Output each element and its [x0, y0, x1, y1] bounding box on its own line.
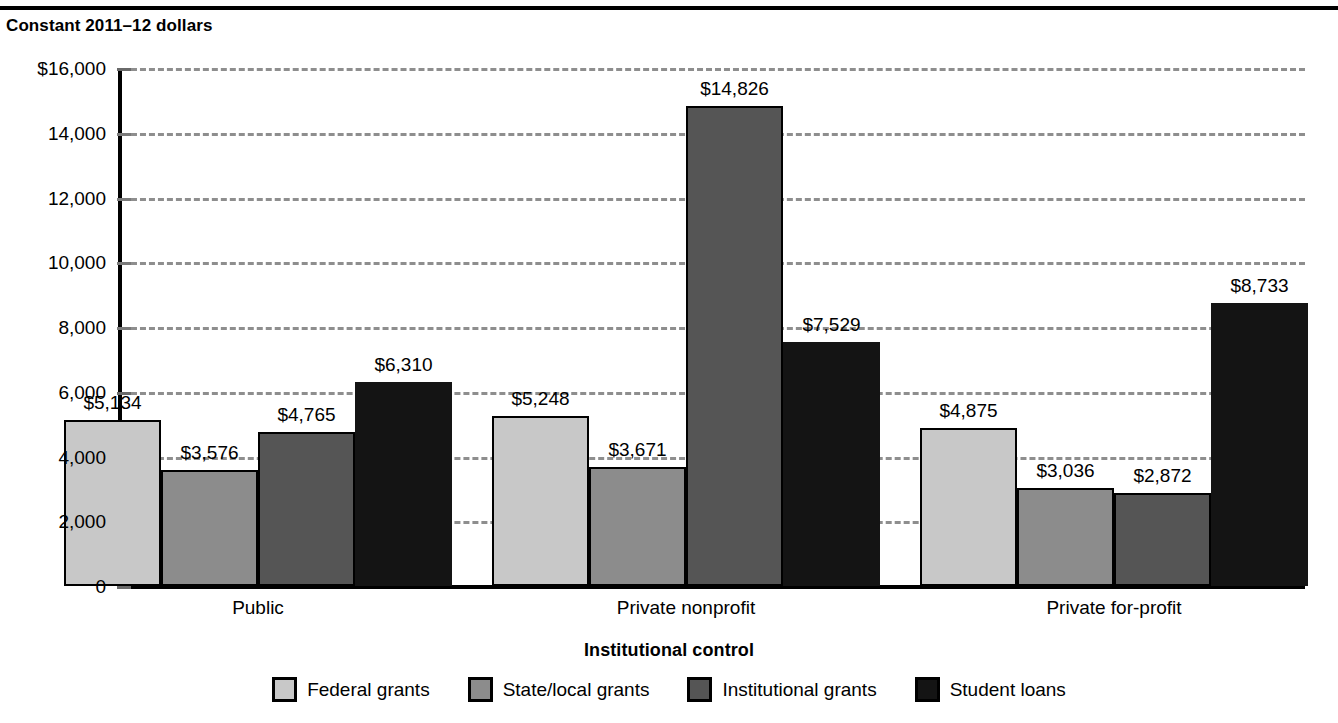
bar[interactable]	[1114, 493, 1211, 586]
y-axis-tick-label: 0	[0, 577, 106, 596]
bar-value-label: $3,036	[1036, 461, 1094, 480]
category-label: Public	[232, 598, 284, 617]
y-axis-tick	[117, 198, 131, 201]
x-axis-title: Institutional control	[0, 640, 1338, 661]
bar[interactable]	[161, 470, 258, 586]
bar[interactable]	[589, 467, 686, 586]
gridline	[122, 68, 1305, 71]
bar[interactable]	[1017, 488, 1114, 586]
y-axis-tick-label: 10,000	[0, 253, 106, 272]
legend-label: Institutional grants	[722, 680, 876, 699]
category-label: Private nonprofit	[617, 598, 755, 617]
chart-legend: Federal grantsState/local grantsInstitut…	[0, 677, 1338, 702]
y-axis-tick	[117, 262, 131, 265]
y-axis-tick	[117, 68, 131, 71]
chart-page: { "header": { "units_label": "Constant 2…	[0, 0, 1338, 723]
bar-value-label: $3,576	[180, 443, 238, 462]
bar-value-label: $8,733	[1230, 276, 1288, 295]
bar[interactable]	[355, 382, 452, 586]
bar-value-label: $2,872	[1133, 466, 1191, 485]
legend-item[interactable]: State/local grants	[468, 677, 650, 702]
bar-value-label: $7,529	[802, 315, 860, 334]
y-axis-tick-label: 2,000	[0, 512, 106, 531]
bar-value-label: $14,826	[700, 79, 769, 98]
top-rule	[0, 6, 1338, 10]
bar-value-label: $4,875	[939, 401, 997, 420]
bar-value-label: $4,765	[277, 405, 335, 424]
legend-item[interactable]: Student loans	[915, 677, 1066, 702]
y-axis-tick-label: 4,000	[0, 447, 106, 466]
bar-value-label: $5,248	[511, 389, 569, 408]
y-axis-tick-label: 6,000	[0, 382, 106, 401]
bar[interactable]	[64, 420, 161, 586]
units-header: Constant 2011–12 dollars	[6, 16, 213, 36]
bar-value-label: $6,310	[374, 355, 432, 374]
category-label: Private for-profit	[1046, 598, 1181, 617]
legend-item[interactable]: Institutional grants	[687, 677, 876, 702]
bar[interactable]	[686, 106, 783, 586]
legend-label: Student loans	[950, 680, 1066, 699]
legend-swatch-icon	[272, 677, 297, 702]
legend-item[interactable]: Federal grants	[272, 677, 430, 702]
bar[interactable]	[783, 342, 880, 586]
legend-swatch-icon	[915, 677, 940, 702]
y-axis-tick-label: $16,000	[0, 59, 106, 78]
plot-area: $5,134$3,576$4,765$6,310$5,248$3,671$14,…	[118, 68, 1305, 589]
bar-value-label: $3,671	[608, 440, 666, 459]
bar[interactable]	[920, 428, 1017, 586]
y-axis-tick	[117, 327, 131, 330]
bar[interactable]	[1211, 303, 1308, 586]
y-axis-tick	[117, 586, 131, 589]
legend-label: State/local grants	[503, 680, 650, 699]
y-axis-tick-label: 12,000	[0, 188, 106, 207]
legend-swatch-icon	[468, 677, 493, 702]
legend-label: Federal grants	[307, 680, 430, 699]
y-axis-tick-label: 8,000	[0, 318, 106, 337]
y-axis-tick-label: 14,000	[0, 123, 106, 142]
legend-swatch-icon	[687, 677, 712, 702]
bar[interactable]	[258, 432, 355, 586]
y-axis-tick	[117, 133, 131, 136]
bar[interactable]	[492, 416, 589, 586]
